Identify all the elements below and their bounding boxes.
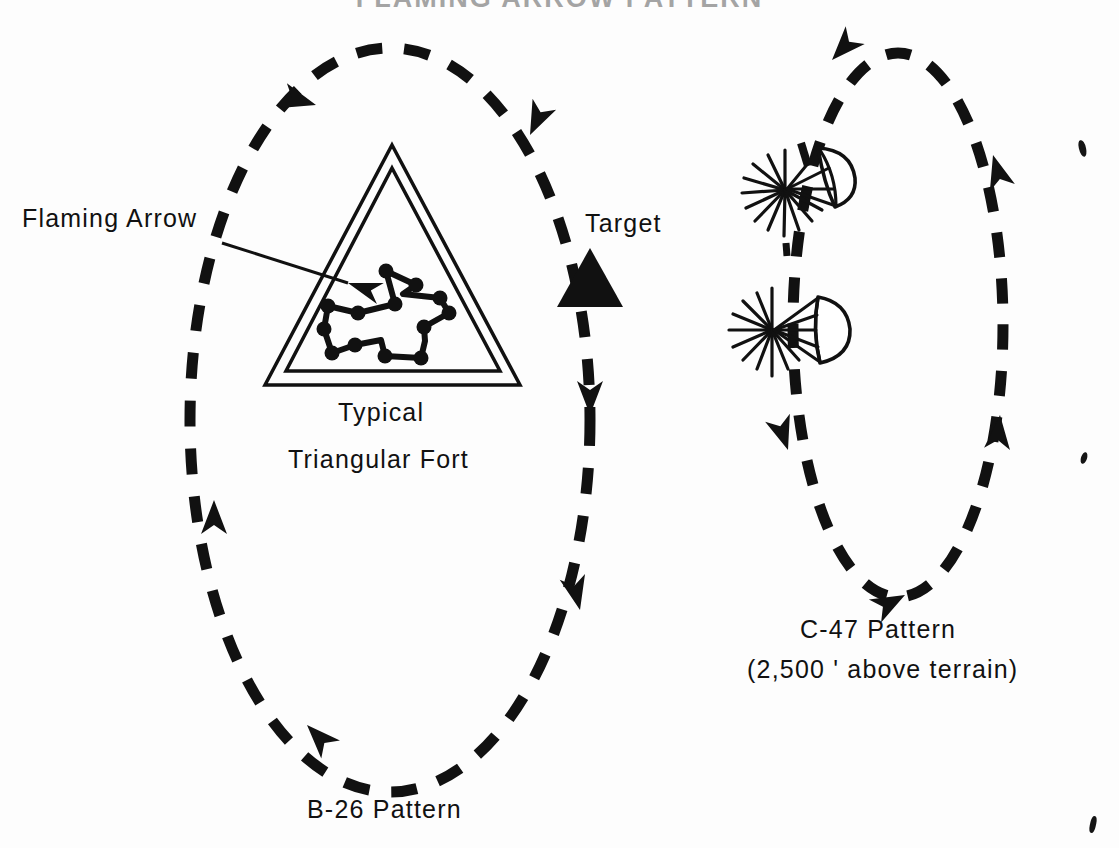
b26-arrowhead-right-upper — [577, 381, 603, 415]
c47-arrowhead-top — [822, 26, 864, 69]
label-c47-pattern: C-47 Pattern — [800, 615, 956, 644]
triangular-fort — [265, 145, 520, 385]
flare-lower-canopy-icon — [815, 297, 850, 363]
label-flaming-arrow: Flaming Arrow — [22, 204, 197, 233]
label-b26-pattern: B-26 Pattern — [307, 795, 462, 824]
label-target: Target — [585, 209, 662, 238]
target-triangle-icon — [557, 248, 623, 307]
flare-upper-tail — [786, 243, 787, 256]
label-triangular-fort: Triangular Fort — [288, 445, 469, 474]
b26-arrowhead-bottom-left — [298, 716, 340, 759]
leader-arrowhead — [345, 273, 384, 304]
diagram-page: FLAMING ARROW PATTERN — [0, 0, 1119, 848]
flaming-arrow-leader — [222, 243, 384, 304]
fort-outer-triangle — [265, 145, 520, 385]
flaming-arrow-outline — [324, 271, 449, 358]
diagram-canvas — [0, 0, 1119, 848]
target-marker — [557, 248, 623, 307]
c47-arrowhead-right-lower — [984, 414, 1013, 450]
b26-arrowhead-left — [201, 500, 227, 534]
right-orbit-c47 — [765, 26, 1015, 622]
label-c47-altitude: (2,500 ' above terrain) — [747, 655, 1018, 684]
label-typical: Typical — [338, 398, 424, 427]
